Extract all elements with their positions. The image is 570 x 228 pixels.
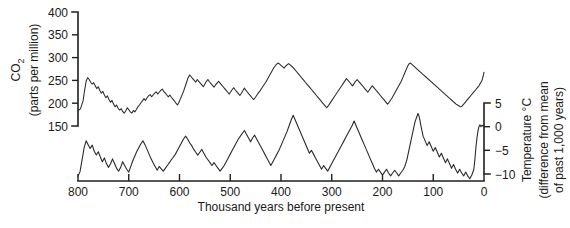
temperature-series-line	[78, 113, 484, 178]
x-axis: 8007006005004003002001000 Thousand years…	[68, 174, 488, 214]
co2-axis-unit: (parts per million)	[27, 24, 41, 117]
x-ticklabel-700: 700	[119, 185, 139, 199]
temp-axis-title-line2: (difference from mean	[537, 81, 551, 198]
temp-axis-title-line1: Temperature °C	[520, 98, 534, 182]
temp-ticklabel-neg10: −10	[495, 168, 516, 182]
x-ticklabel-400: 400	[271, 185, 291, 199]
temp-axis-title-2: (difference from mean	[537, 81, 551, 198]
x-ticklabel-800: 800	[68, 185, 88, 199]
x-ticklabel-300: 300	[322, 185, 342, 199]
x-axis-ticklabels: 8007006005004003002001000	[68, 185, 488, 199]
x-ticklabel-200: 200	[372, 185, 392, 199]
co2-ticklabel-200: 200	[48, 97, 68, 111]
chart-svg: 400 350 300 250 200 150 CO2 (parts per m…	[0, 0, 570, 228]
x-ticklabel-100: 100	[423, 185, 443, 199]
temp-axis-title-1: Temperature °C	[520, 98, 534, 182]
paleoclimate-chart: 400 350 300 250 200 150 CO2 (parts per m…	[0, 0, 570, 228]
co2-panel: 400 350 300 250 200 150 CO2 (parts per m…	[9, 6, 484, 134]
x-axis-ticks	[78, 174, 484, 181]
x-axis-title: Thousand years before present	[198, 200, 365, 214]
x-ticklabel-600: 600	[169, 185, 189, 199]
co2-axis-unit-label: (parts per million)	[27, 24, 41, 117]
co2-ticklabel-300: 300	[48, 51, 68, 65]
temp-axis-spine	[484, 103, 490, 174]
co2-ticklabel-400: 400	[48, 6, 68, 20]
co2-ticklabel-250: 250	[48, 74, 68, 88]
co2-ticklabel-350: 350	[48, 28, 68, 42]
co2-ticklabel-150: 150	[48, 120, 68, 134]
co2-series-line	[78, 63, 484, 113]
temp-ticklabel-0: 0	[495, 120, 502, 134]
temp-axis-title-3: of past 1,000 years)	[552, 87, 566, 193]
temp-ticklabel-neg5: −5	[495, 144, 509, 158]
x-ticklabel-0: 0	[481, 185, 488, 199]
co2-axis-spine	[72, 12, 78, 126]
temp-axis-title-line3: of past 1,000 years)	[552, 87, 566, 193]
x-ticklabel-500: 500	[220, 185, 240, 199]
co2-axis-title-main: CO2	[9, 58, 26, 81]
temp-ticklabel-5: 5	[495, 97, 502, 111]
co2-axis-title: CO2	[9, 58, 26, 81]
